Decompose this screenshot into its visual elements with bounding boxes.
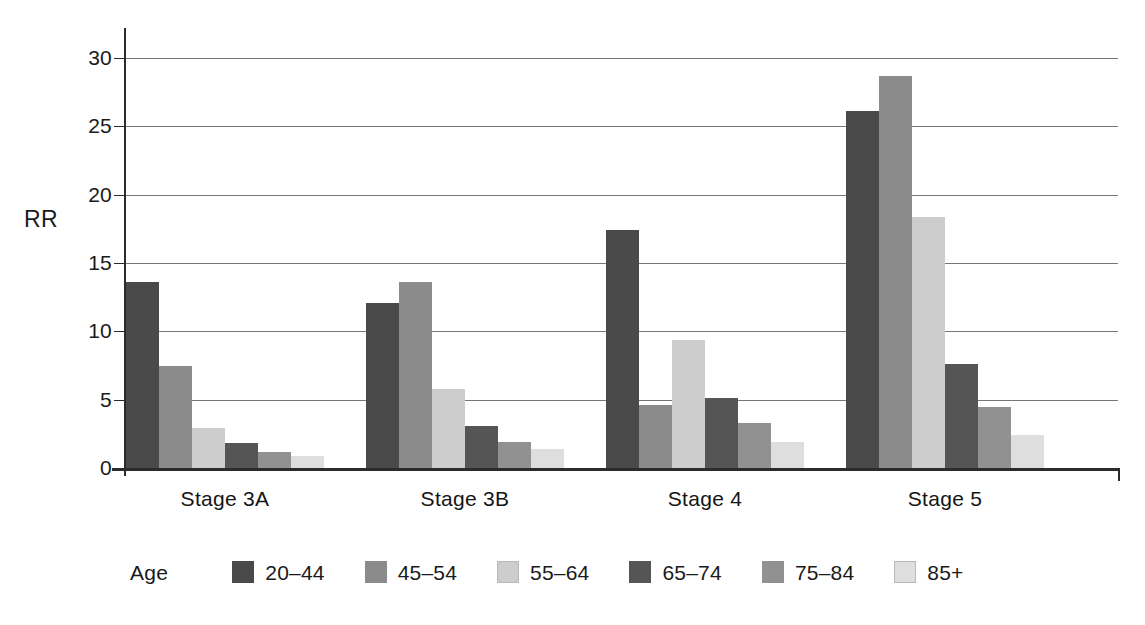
y-axis-tick bbox=[114, 400, 126, 401]
bar bbox=[945, 364, 978, 468]
bar bbox=[366, 303, 399, 468]
legend-swatch-icon bbox=[629, 561, 651, 583]
y-axis-tick-labels: 051015202530 bbox=[0, 0, 112, 500]
bar bbox=[705, 398, 738, 468]
bar bbox=[126, 282, 159, 468]
bar bbox=[978, 407, 1011, 469]
legend-swatch-icon bbox=[365, 561, 387, 583]
y-axis-tick bbox=[114, 126, 126, 127]
gridline bbox=[126, 126, 1118, 127]
y-axis-tick bbox=[114, 468, 126, 469]
plot-area bbox=[126, 40, 1118, 468]
x-axis-category-label: Stage 5 bbox=[855, 487, 1035, 511]
x-axis-category-label: Stage 3A bbox=[135, 487, 315, 511]
legend-label: 65–74 bbox=[662, 562, 721, 583]
legend-item[interactable]: 85+ bbox=[894, 561, 963, 583]
chart-canvas: 051015202530 RR Stage 3AStage 3BStage 4S… bbox=[0, 0, 1145, 625]
legend-item[interactable]: 55–64 bbox=[497, 561, 589, 583]
bar bbox=[159, 366, 192, 469]
legend-item[interactable]: 45–54 bbox=[365, 561, 457, 583]
y-axis-tick bbox=[114, 263, 126, 264]
bar bbox=[498, 442, 531, 468]
legend-swatch-icon bbox=[232, 561, 254, 583]
bar bbox=[771, 442, 804, 468]
y-axis-tick-label: 25 bbox=[12, 115, 112, 136]
gridline bbox=[126, 58, 1118, 59]
y-axis-tick-label: 10 bbox=[12, 320, 112, 341]
bar bbox=[846, 111, 879, 468]
bar bbox=[258, 452, 291, 468]
legend: Age 20–4445–5455–6465–7475–8485+ bbox=[130, 552, 1004, 592]
bar bbox=[531, 449, 564, 468]
x-axis-category-label: Stage 4 bbox=[615, 487, 795, 511]
bar bbox=[1011, 435, 1044, 468]
bar bbox=[879, 76, 912, 468]
bar bbox=[672, 340, 705, 468]
x-axis-line bbox=[112, 468, 1120, 471]
legend-label: 20–44 bbox=[265, 562, 324, 583]
y-axis-label: RR bbox=[24, 208, 58, 231]
bar bbox=[225, 443, 258, 468]
bar bbox=[192, 428, 225, 468]
legend-label: 75–84 bbox=[795, 562, 854, 583]
legend-swatch-icon bbox=[894, 561, 916, 583]
bar bbox=[606, 230, 639, 468]
bar bbox=[912, 217, 945, 468]
bar bbox=[399, 282, 432, 468]
legend-label: 85+ bbox=[927, 562, 963, 583]
y-axis-tick bbox=[114, 331, 126, 332]
y-axis-tick bbox=[114, 195, 126, 196]
legend-items: 20–4445–5455–6465–7475–8485+ bbox=[232, 561, 1003, 583]
legend-label: 45–54 bbox=[398, 562, 457, 583]
y-axis-tick-label: 5 bbox=[12, 389, 112, 410]
legend-swatch-icon bbox=[762, 561, 784, 583]
legend-title: Age bbox=[130, 562, 168, 583]
x-axis-category-label: Stage 3B bbox=[375, 487, 555, 511]
y-axis-tick-label: 15 bbox=[12, 252, 112, 273]
y-axis-tick-label: 30 bbox=[12, 47, 112, 68]
legend-item[interactable]: 20–44 bbox=[232, 561, 324, 583]
legend-swatch-icon bbox=[497, 561, 519, 583]
y-axis-tick-label: 20 bbox=[12, 184, 112, 205]
bar bbox=[738, 423, 771, 468]
bar bbox=[291, 456, 324, 468]
legend-item[interactable]: 75–84 bbox=[762, 561, 854, 583]
y-axis-tick bbox=[114, 58, 126, 59]
legend-item[interactable]: 65–74 bbox=[629, 561, 721, 583]
gridline bbox=[126, 195, 1118, 196]
bar bbox=[432, 389, 465, 468]
bar bbox=[639, 405, 672, 468]
bar bbox=[465, 426, 498, 468]
y-axis-tick-label: 0 bbox=[12, 457, 112, 478]
legend-label: 55–64 bbox=[530, 562, 589, 583]
x-axis-end-tick bbox=[1118, 468, 1120, 481]
